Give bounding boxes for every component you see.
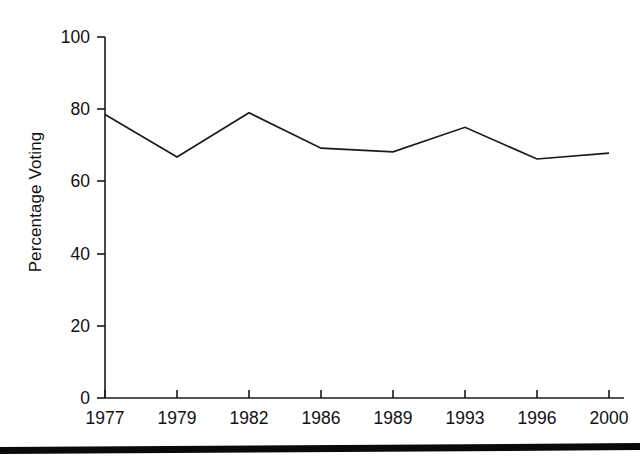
x-tick-label: 1986 [286,408,356,429]
x-tick-label: 1977 [70,408,140,429]
x-tick-label: 1996 [502,408,572,429]
x-axis-tick-labels: 1977 1979 1982 1986 1989 1993 1996 2000 [0,408,640,438]
x-tick-label: 1979 [142,408,212,429]
y-tick-marks [97,37,105,398]
x-tick-label: 1993 [430,408,500,429]
scan-edge-highlight [0,454,640,456]
x-tick-label: 2000 [574,408,640,429]
x-tick-label: 1982 [214,408,284,429]
data-series-line [105,113,609,159]
x-tick-marks [105,390,609,398]
plot-area [0,0,640,465]
chart-figure: Percentage Voting 100 80 60 40 20 0 [0,0,640,465]
x-tick-label: 1989 [358,408,428,429]
